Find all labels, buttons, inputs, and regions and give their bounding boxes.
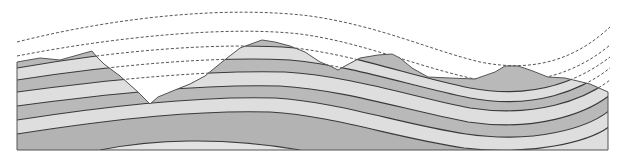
geologic-cross-section	[0, 0, 624, 158]
